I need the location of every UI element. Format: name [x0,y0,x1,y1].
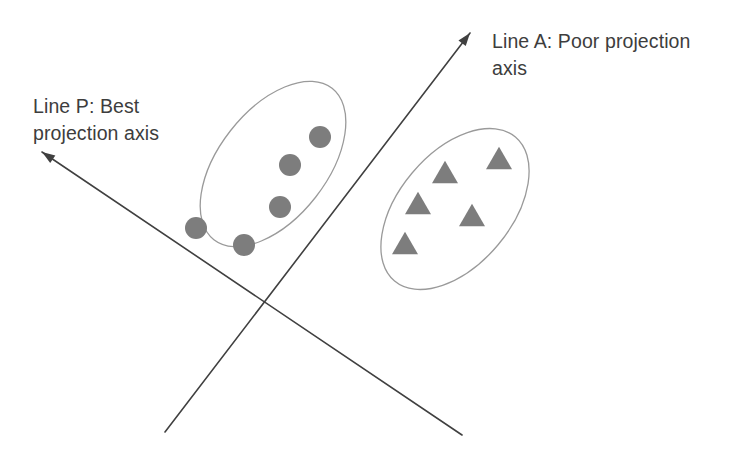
data-point-circle [269,196,291,218]
data-point-triangle [432,161,458,183]
data-point-triangle [405,192,431,214]
line-a-label: Line A: Poor projection axis [492,28,738,82]
line-p-arrowhead [42,152,55,163]
line-p-segment [42,152,462,435]
data-point-circle [185,217,207,239]
triangle-cluster-ellipse [352,101,559,317]
line-p-axis[interactable] [42,152,462,435]
data-point-circle [279,154,301,176]
data-point-triangle [459,204,485,226]
data-point-circle [233,234,255,256]
line-p-label: Line P: Best projection axis [33,93,223,147]
triangle-data-points [392,147,512,254]
line-a-arrowhead [458,33,470,46]
diagram-canvas: Line P: Best projection axis Line A: Poo… [0,0,745,460]
data-point-triangle [392,232,418,254]
circle-cluster-ellipse [171,55,374,273]
data-point-triangle [486,147,512,169]
data-point-circle [309,126,331,148]
